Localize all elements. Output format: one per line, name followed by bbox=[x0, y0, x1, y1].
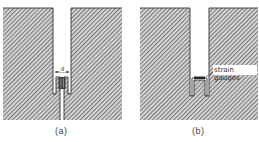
panel-b-insert-core bbox=[194, 80, 205, 95]
arrow-left-icon bbox=[55, 71, 58, 73]
panel-b-strain-gauge bbox=[194, 77, 205, 80]
panel-b-bottom-block bbox=[196, 95, 203, 120]
panel-b-right-block bbox=[203, 8, 258, 120]
panel-b-callout-label: strain gauges bbox=[214, 66, 259, 82]
panel-a-caption: (a) bbox=[55, 126, 68, 136]
panel-b-caption: (b) bbox=[192, 126, 205, 136]
panel-a bbox=[3, 8, 122, 120]
arrow-right-icon bbox=[67, 71, 70, 73]
panel-a-gauge-element bbox=[59, 77, 66, 89]
panel-a-right-block bbox=[64, 8, 122, 120]
panel-a-gauge-highlight bbox=[63, 79, 64, 88]
panel-a-dimension-label: d bbox=[60, 65, 66, 72]
panel-a-gauge-highlight bbox=[60, 79, 61, 88]
panel-b-left-block bbox=[140, 8, 196, 120]
panel-a-left-block bbox=[3, 8, 60, 120]
panel-b bbox=[140, 8, 258, 120]
